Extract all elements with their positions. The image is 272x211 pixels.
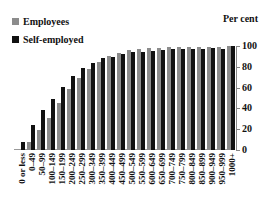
y-axis-line (236, 46, 237, 150)
y-axis-unit-label: Per cent (223, 13, 258, 24)
bar-self-employed (221, 49, 225, 150)
bar-self-employed (151, 51, 155, 150)
x-tick-label: 700–749 (167, 153, 177, 185)
x-tick-label: 300–349 (87, 153, 97, 185)
x-tick-label: 850–899 (197, 153, 207, 185)
x-tick-label: 900–949 (207, 153, 217, 185)
y-tick-label: 100 (242, 40, 257, 51)
x-tick-label: 950–999 (217, 153, 227, 185)
x-tick-label: 0 or less (17, 153, 27, 184)
bar-self-employed (131, 52, 135, 150)
bar-self-employed (31, 125, 35, 150)
bar-self-employed (141, 52, 145, 150)
y-tick-label: 20 (242, 123, 252, 134)
y-tick-label: 80 (242, 61, 252, 72)
y-tick-label: 60 (242, 82, 252, 93)
x-tick-label: 250–299 (77, 153, 87, 185)
x-tick-label: 100–149 (47, 153, 57, 185)
bar-self-employed (111, 57, 115, 150)
x-tick-label: 350–399 (97, 153, 107, 185)
bar-self-employed (21, 142, 25, 150)
x-tick-label: 150–199 (57, 153, 67, 185)
x-tick-label: 400–449 (107, 153, 117, 185)
x-tick-label: 450–499 (117, 153, 127, 185)
legend-label-employees: Employees (23, 16, 69, 27)
bar-self-employed (41, 110, 45, 150)
x-tick-label: 800–849 (187, 153, 197, 185)
y-tick-mark (236, 88, 240, 89)
chart-legend: Employees Self-employed (12, 12, 84, 48)
legend-swatch-employees (12, 18, 19, 25)
x-tick-label: 750–799 (177, 153, 187, 185)
legend-label-self-employed: Self-employed (23, 34, 84, 45)
bar-self-employed (81, 68, 85, 150)
bar-self-employed (121, 54, 125, 150)
bar-self-employed (211, 48, 215, 150)
x-tick-label: 0–49 (27, 153, 37, 171)
bar-self-employed (171, 49, 175, 150)
x-tick-label: 50–99 (37, 153, 47, 176)
bar-self-employed (91, 63, 95, 150)
y-tick-label: 40 (242, 102, 252, 113)
legend-item-employees: Employees (12, 12, 84, 30)
y-tick-mark (236, 46, 240, 47)
x-tick-label: 1000+ (227, 153, 237, 176)
y-tick-mark (236, 150, 240, 151)
y-tick-label: 0 (242, 144, 247, 155)
x-tick-label: 600–649 (147, 153, 157, 185)
x-tick-label: 500–549 (127, 153, 137, 185)
x-tick-label: 550–599 (137, 153, 147, 185)
x-tick-label: 200–249 (67, 153, 77, 185)
y-tick-mark (236, 67, 240, 68)
bar-self-employed (161, 50, 165, 150)
y-tick-mark (236, 108, 240, 109)
legend-swatch-self-employed (12, 36, 19, 43)
bar-self-employed (201, 49, 205, 150)
bar-self-employed (71, 76, 75, 150)
bar-self-employed (51, 99, 55, 150)
bar-self-employed (181, 49, 185, 150)
x-tick-label: 650–699 (157, 153, 167, 185)
bar-self-employed (191, 49, 195, 150)
y-tick-mark (236, 129, 240, 130)
bar-self-employed (61, 87, 65, 150)
bar-self-employed (101, 58, 105, 150)
plot-area (14, 46, 234, 150)
bar-self-employed (231, 46, 235, 150)
